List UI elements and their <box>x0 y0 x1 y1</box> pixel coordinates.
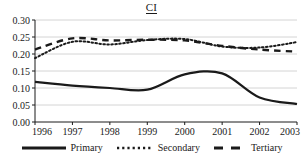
legend-item-primary: Primary <box>21 143 103 153</box>
x-tick-label: 2000 <box>175 126 195 137</box>
y-tick-label: 0.20 <box>13 49 31 60</box>
legend-item-tertiary: Tertiary <box>213 143 283 153</box>
y-tick-label: 0.10 <box>13 83 31 94</box>
x-tick-label: 1996 <box>32 126 52 137</box>
chart-container: CI 0.000.050.100.150.200.250.30 19961997… <box>0 0 303 160</box>
legend-label-secondary: Secondary <box>158 143 200 153</box>
x-tick-labels: 19961997199819992000200120022003 <box>32 122 300 137</box>
x-tick-label: 2001 <box>212 126 232 137</box>
chart-legend: Primary Secondary Tertiary <box>0 138 303 158</box>
y-tick-label: 0.15 <box>13 66 31 77</box>
x-tick-label: 1997 <box>62 126 82 137</box>
y-tick-label: 0.00 <box>13 117 31 128</box>
x-tick-label: 1999 <box>137 126 157 137</box>
x-tick-label: 1998 <box>100 126 120 137</box>
gridlines <box>35 20 297 105</box>
legend-swatch-solid <box>21 144 67 152</box>
legend-swatch-dashed <box>213 144 247 152</box>
x-tick-label: 2003 <box>280 126 300 137</box>
legend-label-tertiary: Tertiary <box>251 143 283 153</box>
y-tick-label: 0.30 <box>13 15 31 26</box>
legend-swatch-dotted <box>116 144 154 152</box>
series-line-secondary <box>35 39 297 58</box>
legend-item-secondary: Secondary <box>116 143 200 153</box>
y-tick-label: 0.05 <box>13 100 31 111</box>
series-line-tertiary <box>35 38 297 52</box>
legend-label-primary: Primary <box>71 143 103 153</box>
x-tick-label: 2002 <box>250 126 270 137</box>
y-tick-label: 0.25 <box>13 32 31 43</box>
plot-area: 0.000.050.100.150.200.250.30 19961997199… <box>0 0 303 138</box>
y-tick-labels: 0.000.050.100.150.200.250.30 <box>13 15 36 128</box>
